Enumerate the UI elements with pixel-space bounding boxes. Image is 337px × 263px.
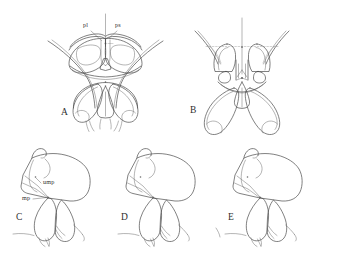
- panel-e-left-lower-lobe: [246, 198, 268, 241]
- panel-e-hook-tip: [253, 156, 258, 159]
- panel-e-left-lobe-notch-b: [269, 226, 278, 236]
- panel-c-hook-tip: [41, 156, 46, 159]
- figure-drawing-canvas: A B C D E pl ps ump mp: [0, 0, 337, 263]
- panel-b-right-plate-fold: [256, 48, 266, 71]
- panel-c-leader-ump: [36, 178, 41, 183]
- panel-d-drawing: [118, 149, 195, 247]
- panel-d-apical-hook: [137, 149, 151, 157]
- panel-d-ump-fold: [149, 159, 155, 178]
- panel-label-b: B: [190, 105, 197, 115]
- panel-a-seta-4: [114, 121, 119, 131]
- panel-b-left-lobe-tip: [207, 121, 223, 133]
- panel-a-seta-2: [90, 121, 95, 131]
- panel-c-leader-mp: [33, 198, 47, 200]
- panel-b-left-lower-lobe: [204, 88, 238, 135]
- panel-d-main-plate: [126, 154, 195, 202]
- panel-e-inner-ridge: [241, 160, 249, 192]
- panel-b-right-lower-lobe: [245, 88, 279, 135]
- panel-c-ump-point: [35, 176, 37, 178]
- panel-b-left-plate-fold: [218, 48, 228, 71]
- panel-a-seta-5: [100, 119, 101, 129]
- panel-a-right-lower-lobe: [109, 84, 138, 122]
- panel-label-c: C: [16, 212, 23, 222]
- panel-d-left-lower-lobe: [139, 198, 161, 241]
- panel-d-basal-stalk: [118, 234, 139, 236]
- panel-label-d: D: [121, 212, 128, 222]
- panel-a-seta-6: [110, 119, 111, 129]
- panel-c-left-lobe-notch-b: [57, 226, 66, 236]
- panel-e-basal-stalk: [225, 234, 246, 236]
- panel-d-ump-point: [140, 176, 142, 178]
- panel-a-left-sclerite: [76, 45, 100, 65]
- panel-e-right-lobe-tip: [295, 235, 297, 242]
- panel-label-e: E: [228, 212, 234, 222]
- panel-a-left-lower-lobe: [73, 84, 102, 122]
- panel-b-drawing: [195, 18, 289, 135]
- panel-e-main-plate: [233, 154, 302, 202]
- part-label-pl: pl: [83, 21, 88, 28]
- part-label-ump: ump: [43, 178, 55, 185]
- panel-e-ump-fold: [256, 159, 262, 178]
- panel-c-basal-stalk: [13, 234, 34, 236]
- panel-c-ump-fold: [44, 159, 50, 178]
- panel-b-left-knob: [219, 72, 231, 84]
- panel-b-left-plate: [214, 44, 236, 72]
- panel-e-edge-fragment: [216, 228, 220, 237]
- panel-a-seta-3: [119, 121, 122, 132]
- panel-c-left-lower-lobe: [34, 198, 56, 241]
- panel-c-right-lobe-tip: [83, 235, 85, 242]
- panel-a-median-keel: [100, 59, 111, 71]
- panel-a-right-sclerite: [110, 45, 134, 65]
- panel-b-right-lobe-tip: [262, 121, 278, 133]
- panel-c-apical-hook: [32, 149, 46, 157]
- figure-plate: A B C D E pl ps ump mp: [0, 0, 337, 263]
- panel-d-inner-ridge: [134, 160, 142, 192]
- panel-d-right-lobe-tip: [188, 235, 190, 242]
- panel-label-a: A: [61, 107, 68, 117]
- panel-c-main-plate: [21, 154, 90, 202]
- panel-d-median-notch: [151, 238, 155, 247]
- panel-a-seta-1: [86, 121, 89, 132]
- panel-d-hook-tip: [146, 156, 151, 159]
- panel-e-ump-point: [247, 176, 249, 178]
- panel-a-lower-band: [70, 66, 141, 77]
- panel-b-right-plate: [248, 44, 270, 72]
- part-label-mp: mp: [22, 194, 30, 201]
- panel-c-inner-ridge: [29, 160, 37, 192]
- panel-a-lower-centre-dot: [105, 81, 107, 83]
- panel-e-median-notch: [258, 238, 262, 247]
- panel-b-right-knob: [254, 72, 266, 84]
- panel-e-apical-hook: [244, 149, 258, 157]
- part-label-ps: ps: [115, 21, 121, 28]
- panel-c-median-notch: [46, 238, 50, 247]
- panel-e-drawing: [216, 149, 302, 247]
- panel-d-left-lobe-notch-b: [162, 226, 171, 236]
